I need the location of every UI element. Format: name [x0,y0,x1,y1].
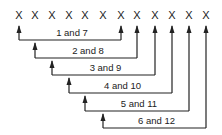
marker-x: X [185,9,193,21]
arrowhead-icon [67,77,72,85]
arrowhead-icon [187,25,192,33]
arrowhead-icon [101,113,106,121]
arrowhead-icon [135,25,140,33]
arrowhead-icon [204,25,209,33]
marker-x: X [31,9,39,21]
pair-label: 4 and 10 [104,80,141,91]
pair-label: 1 and 7 [56,27,88,38]
arrowhead-icon [17,25,22,33]
marker-x: X [81,9,89,21]
marker-x: X [117,9,125,21]
pair-label: 2 and 8 [72,45,104,56]
marker-x: X [48,9,56,21]
pairing-diagram: XXXXXXXXXXXX1 and 72 and 83 and 94 and 1… [0,0,222,135]
arrowhead-icon [153,25,158,33]
arrowhead-icon [50,60,55,68]
marker-x: X [65,9,73,21]
marker-x: X [202,9,210,21]
pair-label: 6 and 12 [138,115,175,126]
marker-x: X [99,9,107,21]
marker-x: X [15,9,23,21]
marker-x: X [168,9,176,21]
arrowhead-icon [119,25,124,33]
arrowhead-icon [83,95,88,103]
arrowhead-icon [170,25,175,33]
marker-x: X [151,9,159,21]
arrowhead-icon [33,42,38,50]
marker-x: X [133,9,141,21]
pair-label: 5 and 11 [121,98,157,109]
pair-label: 3 and 9 [90,62,122,73]
